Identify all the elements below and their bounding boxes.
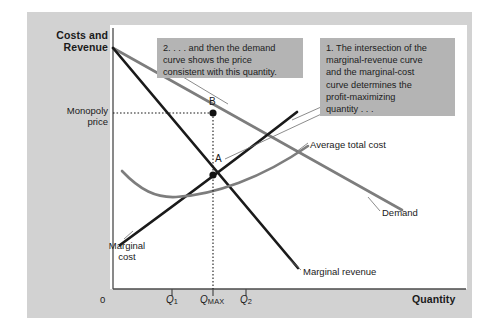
tick-q1-base: Q <box>166 294 174 305</box>
monopoly-price-label: Monopoly price <box>40 105 108 127</box>
tick-q2-base: Q <box>240 294 248 305</box>
demand-label: Demand <box>382 207 418 218</box>
tick-q1-sub: 1 <box>174 297 178 306</box>
marginal-cost-curve <box>120 112 297 245</box>
tick-qmax-base: Q <box>200 294 208 305</box>
marginal-revenue-leader <box>288 258 301 270</box>
tick-q2-sub: 2 <box>248 297 252 306</box>
average-total-cost-label: Average total cost <box>310 139 386 150</box>
x-axis-title: Quantity <box>412 293 455 305</box>
callout-box-1: 1. The intersection of the marginal-reve… <box>320 38 455 116</box>
figure-container: Costs and Revenue Monopoly price 0 Quant… <box>0 0 482 336</box>
tick-label-qmax: QMAX <box>200 294 224 307</box>
tick-qmax-sub: MAX <box>208 297 225 306</box>
tick-label-q1: Q1 <box>166 294 178 307</box>
marginal-cost-label: Marginal cost <box>97 240 157 262</box>
point-a-marker <box>209 171 216 178</box>
callout-box-2: 2. . . . and then the demand curve shows… <box>157 38 303 78</box>
demand-leader <box>368 197 380 211</box>
tick-label-q2: Q2 <box>240 294 252 307</box>
marginal-revenue-label: Marginal revenue <box>303 266 376 277</box>
point-b-marker <box>209 109 216 116</box>
y-axis-title: Costs and Revenue <box>36 29 108 54</box>
origin-label: 0 <box>100 294 105 305</box>
callout-1-leader-a <box>225 110 330 159</box>
marginal-revenue-curve <box>113 48 298 268</box>
point-b-label: B <box>209 96 216 108</box>
point-a-label: A <box>215 153 222 165</box>
